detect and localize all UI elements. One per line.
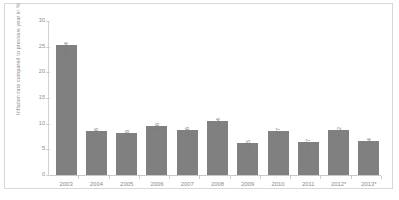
x-axis-tick-mark xyxy=(109,176,110,179)
x-axis-tick-mark xyxy=(260,176,261,179)
x-axis-tick-mark xyxy=(381,176,382,179)
bar-value-label: 6,25 xyxy=(242,135,248,146)
y-axis-tick-mark xyxy=(46,72,50,73)
bar-value-label: 9,6 xyxy=(151,119,157,127)
bar: 10,44 xyxy=(207,121,228,175)
y-axis-tick-label: 10 xyxy=(39,120,45,126)
x-axis-tick-mark xyxy=(290,176,291,179)
y-axis-tick-label: 25 xyxy=(39,43,45,49)
plot-area: 051015202530 25,348,68,189,68,7610,446,2… xyxy=(48,21,381,176)
x-axis-tick-mark xyxy=(169,176,170,179)
bar-value-label: 8,57 xyxy=(272,123,278,134)
x-axis-tick-mark xyxy=(320,176,321,179)
y-axis-tick: 5 xyxy=(48,149,53,150)
x-axis-tick-mark xyxy=(199,176,200,179)
bar: 8,6 xyxy=(86,131,107,175)
y-axis-tick-mark xyxy=(46,124,50,125)
y-axis-tick-mark xyxy=(46,47,50,48)
x-axis-label: 2013* xyxy=(349,181,389,187)
bar: 6,54 xyxy=(358,141,379,175)
bar: 8,72 xyxy=(328,130,349,175)
bar: 6,47 xyxy=(298,142,319,175)
y-axis-tick: 20 xyxy=(48,72,53,73)
x-axis-tick-mark xyxy=(78,176,79,179)
x-axis-tick-mark xyxy=(139,176,140,179)
bar: 8,76 xyxy=(177,130,198,175)
y-axis-tick-label: 30 xyxy=(39,17,45,23)
x-axis-tick-mark xyxy=(351,176,352,179)
y-axis-tick-label: 15 xyxy=(39,94,45,100)
bar-value-label: 25,34 xyxy=(60,35,66,49)
y-axis-tick-label: 5 xyxy=(42,145,45,151)
bar: 8,57 xyxy=(268,131,289,175)
bar: 8,18 xyxy=(116,133,137,175)
y-axis-tick: 10 xyxy=(48,124,53,125)
bar: 6,25 xyxy=(237,143,258,175)
bar-value-label: 6,54 xyxy=(363,133,369,144)
y-axis-tick-mark xyxy=(46,21,50,22)
y-axis-tick-label: 20 xyxy=(39,68,45,74)
y-axis-tick: 25 xyxy=(48,47,53,48)
bar-value-label: 8,18 xyxy=(121,125,127,136)
bar-value-label: 8,72 xyxy=(333,122,339,133)
y-axis-title: Inflation rate compared to previous year… xyxy=(15,0,21,134)
bar: 9,6 xyxy=(146,126,167,175)
y-axis-tick-mark xyxy=(46,175,50,176)
bar-value-label: 8,6 xyxy=(90,124,96,132)
y-axis-tick: 0 xyxy=(48,175,53,176)
y-axis-tick-mark xyxy=(46,149,50,150)
chart-container: Inflation rate compared to previous year… xyxy=(4,3,393,189)
bar: 25,34 xyxy=(56,45,77,175)
x-axis-line xyxy=(48,175,381,176)
bar-value-label: 6,47 xyxy=(302,134,308,145)
y-axis-tick: 30 xyxy=(48,21,53,22)
bar-value-label: 8,76 xyxy=(181,122,187,133)
x-axis-tick-mark xyxy=(230,176,231,179)
y-axis-tick: 15 xyxy=(48,98,53,99)
y-axis-tick-mark xyxy=(46,98,50,99)
bar-value-label: 10,44 xyxy=(212,112,218,126)
y-axis-tick-label: 0 xyxy=(42,171,45,177)
